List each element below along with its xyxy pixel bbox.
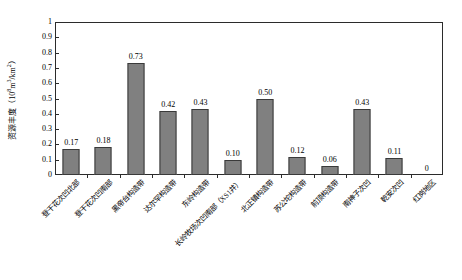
bar[interactable] [192, 109, 209, 175]
bar-slot: 0.11 [378, 22, 410, 175]
y-axis-title: 资源丰度（108m3/km2） [6, 56, 17, 140]
bar[interactable] [257, 99, 274, 176]
x-axis-label: 黑帝台构造带 [110, 178, 146, 214]
bar[interactable] [321, 166, 338, 175]
bar[interactable] [160, 111, 177, 175]
y-axis-tick-label: 0.4 [30, 110, 52, 118]
x-axis-label: 长岭牧场次凹南部（XS1井） [173, 178, 243, 248]
bar-slot: 0.42 [152, 22, 184, 175]
bar-chart-figure: 资源丰度（108m3/km2） 10.90.80.70.60.50.40.30.… [0, 0, 462, 280]
bar-value-label: 0 [425, 164, 429, 173]
bar[interactable] [95, 147, 112, 175]
y-axis-tick-label: 0.6 [30, 79, 52, 87]
bar[interactable] [289, 157, 306, 175]
y-axis-tick-label: 0.7 [30, 64, 52, 72]
bar-value-label: 0.43 [193, 98, 207, 107]
x-axis-label: 乾安次凹 [379, 178, 405, 204]
bar-value-label: 0.11 [388, 147, 402, 156]
y-axis-tick-label: 1 [30, 18, 52, 26]
bar-value-label: 0.12 [290, 146, 304, 155]
bar[interactable] [63, 149, 80, 175]
x-axis-label: 南神子次凹 [341, 178, 372, 209]
x-axis-label: 苏公坨构造带 [272, 178, 308, 214]
x-axis-label: 北正镇构造带 [239, 178, 275, 214]
bar-value-label: 0.43 [355, 98, 369, 107]
y-axis-tick-label: 0.3 [30, 125, 52, 133]
x-axis-label: 红岗地区 [411, 178, 437, 204]
bars-layer: 0.170.180.730.420.430.100.500.120.060.43… [55, 22, 443, 175]
bar-value-label: 0.06 [323, 155, 337, 164]
bar-value-label: 0.50 [258, 88, 272, 97]
y-axis-tick-label: 0.9 [30, 33, 52, 41]
bar-value-label: 0.73 [129, 52, 143, 61]
bar-slot: 0.50 [249, 22, 281, 175]
bar-slot: 0.43 [346, 22, 378, 175]
y-axis-title-container: 资源丰度（108m3/km2） [2, 22, 20, 174]
bar-value-label: 0.42 [161, 100, 175, 109]
bar-slot: 0.73 [120, 22, 152, 175]
bar-value-label: 0.10 [226, 149, 240, 158]
bar-slot: 0.43 [184, 22, 216, 175]
y-axis-tick-label: 0 [30, 171, 52, 179]
bar-slot: 0.17 [55, 22, 87, 175]
x-axis-label: 达尔罕构造带 [142, 178, 178, 214]
y-axis-tick-label: 0.1 [30, 156, 52, 164]
y-axis-title-text: 资源丰度（108m3/km2） [8, 56, 17, 140]
x-axis-label: 前顶构造带 [309, 178, 340, 209]
bar[interactable] [224, 160, 241, 175]
bar[interactable] [354, 109, 371, 175]
bar-slot: 0 [411, 22, 443, 175]
bar[interactable] [386, 158, 403, 175]
y-axis-tick-label: 0.5 [30, 95, 52, 103]
bar-slot: 0.10 [217, 22, 249, 175]
y-axis-tick-label: 0.8 [30, 49, 52, 57]
bar-slot: 0.18 [87, 22, 119, 175]
bar-slot: 0.06 [314, 22, 346, 175]
bar-slot: 0.12 [281, 22, 313, 175]
bar-value-label: 0.18 [96, 136, 110, 145]
x-axis-label: 东岭构造带 [180, 178, 211, 209]
y-axis-tick-label: 0.2 [30, 140, 52, 148]
bar-value-label: 0.17 [64, 138, 78, 147]
x-axis-labels: 登干花次凹北部登干花次凹南部黑帝台构造带达尔罕构造带东岭构造带长岭牧场次凹南部（… [55, 178, 443, 278]
bar[interactable] [127, 63, 144, 175]
